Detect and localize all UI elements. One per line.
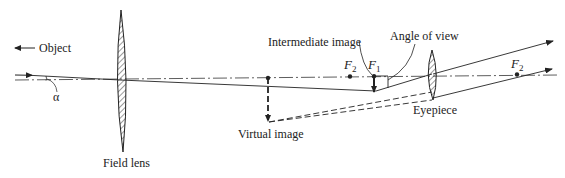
intermediate-image-label: Intermediate image (268, 35, 361, 49)
f2-left-label: F2 (343, 57, 356, 74)
field-lens-label: Field lens (103, 156, 150, 170)
field-lens (117, 10, 126, 152)
alpha-label: α (53, 90, 60, 104)
focal-point-f2-left (348, 74, 352, 78)
virtual-ray-dashed-1 (269, 92, 432, 122)
eyepiece-label: Eyepiece (413, 103, 457, 117)
object-label: Object (39, 41, 72, 55)
emergent-ray-lower (433, 69, 552, 98)
optical-diagram: Object α Field lens Virtual image F2 F1 … (0, 0, 565, 178)
optical-axis (15, 75, 560, 80)
emergent-ray-upper (433, 41, 553, 74)
chief-ray-to-field-lens (30, 75, 120, 80)
ray-intermediate-to-eyepiece-lower (376, 91, 432, 99)
virtual-ray-dashed-2 (269, 100, 432, 122)
chief-ray-to-intermediate-image (120, 80, 376, 91)
angle-of-view-label: Angle of view (390, 29, 459, 43)
virtual-image-label: Virtual image (238, 127, 304, 141)
f2-right-label: F2 (510, 56, 523, 73)
alpha-angle-arc (46, 76, 47, 81)
angle-of-view-leader (388, 44, 415, 80)
